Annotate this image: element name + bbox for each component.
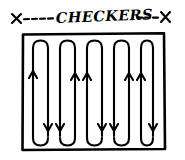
checkers-coverage-diagram: CHECKERS	[0, 0, 185, 160]
